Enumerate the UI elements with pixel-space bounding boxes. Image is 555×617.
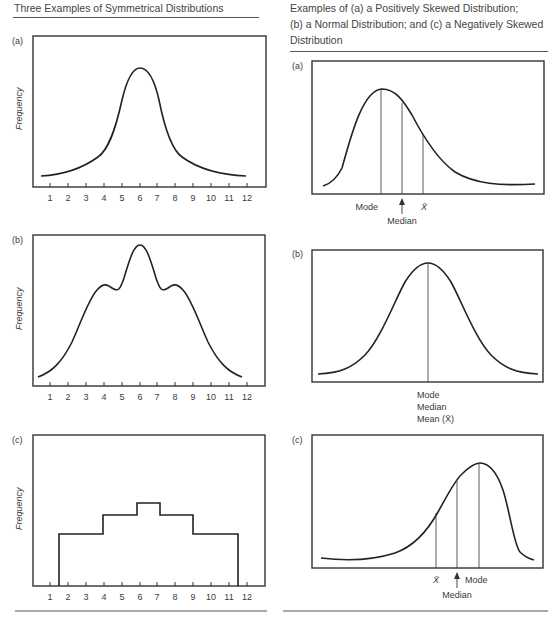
svg-text:4: 4 bbox=[101, 193, 106, 203]
svg-text:9: 9 bbox=[190, 392, 195, 402]
plot-frame bbox=[312, 435, 543, 568]
svg-text:9: 9 bbox=[190, 193, 195, 203]
svg-text:6: 6 bbox=[137, 392, 142, 402]
mode-label: Mode bbox=[417, 390, 440, 400]
panel-label: (c) bbox=[292, 435, 303, 445]
svg-text:11: 11 bbox=[224, 193, 233, 203]
right-panel-b: (b) Mode Median Mean (X̄) bbox=[292, 249, 543, 424]
svg-text:1: 1 bbox=[47, 193, 52, 203]
y-axis-label: Frequency bbox=[14, 87, 24, 130]
svg-text:4: 4 bbox=[101, 592, 106, 602]
panel-label: (a) bbox=[292, 61, 303, 71]
svg-text:2: 2 bbox=[65, 193, 70, 203]
mean-label: X̄ bbox=[432, 575, 440, 585]
svg-text:2: 2 bbox=[65, 592, 70, 602]
svg-text:12: 12 bbox=[242, 392, 252, 402]
mode-label: Mode bbox=[465, 575, 488, 585]
svg-text:3: 3 bbox=[83, 193, 88, 203]
panel-label: (a) bbox=[12, 36, 23, 46]
median-label: Median bbox=[442, 590, 472, 600]
svg-text:11: 11 bbox=[224, 592, 233, 602]
x-tick-labels: 12 34 56 78 910 1112 bbox=[47, 592, 252, 602]
svg-text:11: 11 bbox=[224, 392, 233, 402]
svg-text:6: 6 bbox=[137, 193, 142, 203]
svg-text:5: 5 bbox=[119, 592, 124, 602]
svg-text:8: 8 bbox=[172, 592, 177, 602]
svg-text:9: 9 bbox=[190, 592, 195, 602]
mode-label: Mode bbox=[355, 202, 378, 212]
figure-canvas: (a) Frequency 12 34 56 78 910 1112 (b) F… bbox=[0, 0, 555, 617]
svg-text:6: 6 bbox=[137, 592, 142, 602]
y-axis-label: Frequency bbox=[14, 287, 24, 330]
median-arrow-icon bbox=[454, 572, 460, 588]
x-tick-labels: 12 34 56 78 910 1112 bbox=[47, 193, 252, 203]
y-axis-label: Frequency bbox=[14, 487, 24, 530]
mean-label: Mean (X̄) bbox=[417, 414, 454, 424]
svg-text:8: 8 bbox=[172, 193, 177, 203]
right-panel-c: (c) X̄ Median Mode bbox=[283, 435, 548, 611]
plot-frame bbox=[312, 250, 543, 382]
svg-text:12: 12 bbox=[242, 193, 252, 203]
right-panel-a: (a) Mode Median X̄ bbox=[292, 61, 544, 226]
panel-label: (c) bbox=[12, 435, 23, 445]
plot-frame bbox=[33, 36, 266, 187]
svg-text:5: 5 bbox=[119, 193, 124, 203]
left-panel-a: (a) Frequency 12 34 56 78 910 1112 bbox=[12, 36, 266, 203]
distribution-curve bbox=[38, 245, 242, 377]
svg-text:8: 8 bbox=[172, 392, 177, 402]
svg-text:2: 2 bbox=[65, 392, 70, 402]
median-label: Median bbox=[387, 216, 417, 226]
left-panel-b: (b) Frequency 12 34 56 78 910 1112 bbox=[12, 235, 265, 402]
svg-text:7: 7 bbox=[154, 392, 159, 402]
svg-text:10: 10 bbox=[206, 193, 216, 203]
median-arrow-icon bbox=[399, 198, 405, 214]
distribution-curve bbox=[321, 463, 534, 560]
svg-text:3: 3 bbox=[83, 592, 88, 602]
panel-label: (b) bbox=[292, 249, 303, 259]
distribution-curve bbox=[323, 89, 535, 186]
histogram-outline bbox=[59, 503, 238, 586]
x-tick-labels: 12 34 56 78 910 1112 bbox=[47, 392, 252, 402]
median-label: Median bbox=[417, 402, 447, 412]
svg-text:4: 4 bbox=[101, 392, 106, 402]
svg-text:12: 12 bbox=[242, 592, 252, 602]
svg-text:10: 10 bbox=[206, 392, 216, 402]
svg-text:1: 1 bbox=[47, 592, 52, 602]
left-panel-c: (c) Frequency 12 34 56 78 910 1112 bbox=[12, 435, 267, 611]
svg-text:3: 3 bbox=[83, 392, 88, 402]
svg-text:7: 7 bbox=[154, 193, 159, 203]
svg-text:10: 10 bbox=[206, 592, 216, 602]
svg-text:7: 7 bbox=[154, 592, 159, 602]
plot-frame bbox=[33, 435, 265, 586]
panel-label: (b) bbox=[12, 235, 23, 245]
plot-frame bbox=[312, 61, 544, 194]
svg-text:5: 5 bbox=[119, 392, 124, 402]
distribution-curve bbox=[41, 68, 246, 176]
mean-label: X̄ bbox=[420, 202, 428, 212]
svg-text:1: 1 bbox=[47, 392, 52, 402]
